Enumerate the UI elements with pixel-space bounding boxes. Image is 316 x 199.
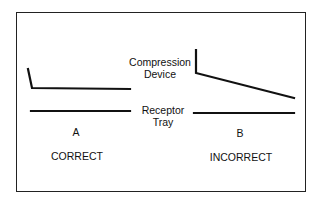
compression-device-incorrect (196, 50, 294, 98)
diagram-lines (0, 0, 316, 199)
panel-b-label: B (230, 127, 250, 139)
receptor-tray-label: Receptor Tray (135, 104, 191, 128)
correct-label: CORRECT (45, 150, 109, 162)
panel-a-label: A (66, 126, 86, 138)
compression-device-label: Compression Device (128, 56, 192, 80)
incorrect-label: INCORRECT (205, 151, 277, 163)
compression-device-correct (28, 69, 130, 89)
